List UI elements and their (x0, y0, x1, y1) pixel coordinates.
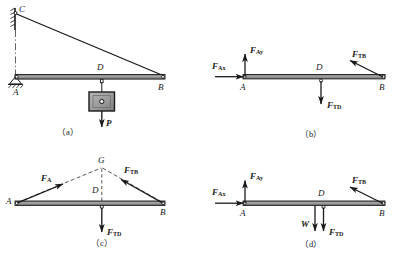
force-label-fa-c: FA (41, 174, 51, 183)
force-label-fay-b: FAy (250, 46, 263, 55)
force-label-w-d: W (301, 220, 309, 229)
force-sub-tb: TB (358, 53, 366, 59)
force-label-ftd-b: FTD (327, 101, 342, 110)
panel-d-graphics (215, 181, 385, 232)
force-label-ftd-c: FTD (107, 228, 122, 237)
wall-support (11, 8, 16, 30)
force-sub-tb: TB (130, 169, 138, 175)
force-sub-td: TD (335, 231, 344, 237)
beam-ab-b (243, 75, 385, 79)
hanger-eye-d (101, 79, 104, 82)
beam-ab-d (243, 201, 385, 205)
point-label-b-panel-c: B (160, 208, 166, 217)
point-label-d-panel-b: D (316, 63, 323, 72)
point-label-a-panel-c: A (6, 197, 12, 206)
force-arrow-ftb-c (121, 180, 163, 203)
force-sub-a: A (47, 177, 51, 183)
beam-ab-c (15, 201, 165, 205)
panel-a-graphics (8, 8, 165, 127)
point-label-d-panel-c: D (92, 186, 99, 195)
point-label-a-panel-d: A (240, 209, 246, 218)
pin-node-b (162, 75, 165, 78)
point-label-g: G (98, 156, 105, 165)
force-label-fay-d: FAy (250, 172, 263, 181)
pin-node-a (15, 75, 18, 78)
force-label-ftb-d: FTB (352, 176, 366, 185)
point-label-d-panel-a: D (97, 63, 104, 72)
force-sub-ax: Ax (218, 65, 225, 71)
beam-ab-a (15, 75, 165, 80)
force-sub-ay: Ay (256, 175, 263, 181)
force-arrow-fa-c (18, 184, 64, 203)
force-label-ftb-b: FTB (352, 50, 366, 59)
caption-b: （b） (300, 130, 322, 139)
caption-c: （c） (91, 239, 113, 248)
block-center-hole (100, 99, 104, 103)
force-sub-ay: Ay (256, 49, 263, 55)
cable-cb (17, 14, 164, 76)
force-sub-tb: TB (358, 179, 366, 185)
force-sub-ax: Ax (218, 191, 225, 197)
force-label-p: P (106, 119, 112, 128)
point-label-b-panel-b: B (379, 83, 385, 92)
point-label-a-panel-a: A (13, 88, 19, 97)
point-label-b-panel-d: B (379, 209, 385, 218)
force-sub-td: TD (333, 104, 342, 110)
panel-b-graphics (215, 54, 385, 104)
force-label-fax-b: FAx (212, 62, 225, 71)
force-label-ftd-d: FTD (329, 228, 344, 237)
panel-c-graphics (15, 168, 165, 232)
point-label-a-panel-b: A (240, 83, 246, 92)
point-label-c: C (19, 5, 25, 14)
caption-d: （d） (300, 240, 322, 249)
force-label-ftb-c: FTB (124, 166, 138, 175)
point-label-d-panel-d: D (318, 189, 325, 198)
force-sub-td: TD (113, 231, 122, 237)
statics-figure: C A D B P （a） A D B FAx FAy FTB FTD （b） … (0, 0, 401, 258)
caption-a: （a） (57, 128, 79, 137)
point-label-b-panel-a: B (158, 83, 164, 92)
force-label-fax-d: FAx (212, 188, 225, 197)
